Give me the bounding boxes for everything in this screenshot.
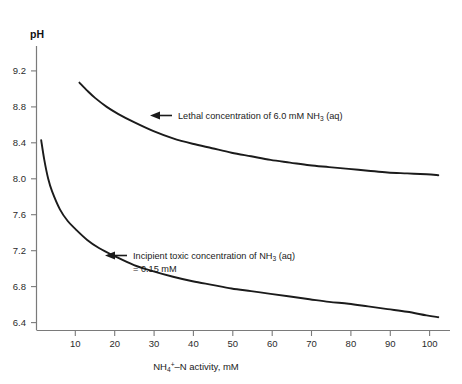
y-tick-label-7: 9.2 bbox=[13, 65, 26, 76]
ph-ammonia-chart: 6.4 6.8 7.2 7.6 8.0 8.4 8.8 9.2 10 20 bbox=[0, 0, 462, 384]
x-axis-ticks bbox=[75, 331, 429, 337]
y-tick-label-2: 7.2 bbox=[13, 245, 26, 256]
x-tick-label-4: 50 bbox=[228, 338, 239, 349]
x-tick-label-2: 30 bbox=[149, 338, 160, 349]
annotation-incipient-prefix: Incipient toxic concentration of NH bbox=[133, 251, 272, 261]
x-tick-label-1: 20 bbox=[109, 338, 120, 349]
annotation-incipient: Incipient toxic concentration of NH3 (aq… bbox=[105, 251, 295, 274]
annotation-incipient-text-line2: = 0.15 mM bbox=[133, 264, 177, 274]
y-tick-label-3: 7.6 bbox=[13, 209, 26, 220]
x-axis-title-prefix: NH bbox=[153, 361, 167, 372]
y-tick-label-0: 6.4 bbox=[13, 317, 26, 328]
x-tick-label-5: 60 bbox=[267, 338, 278, 349]
curve-incipient-toxic-concentration bbox=[41, 140, 438, 317]
y-tick-label-1: 6.8 bbox=[13, 281, 26, 292]
x-tick-label-7: 80 bbox=[346, 338, 357, 349]
y-tick-label-4: 8.0 bbox=[13, 173, 26, 184]
y-tick-label-5: 8.4 bbox=[13, 137, 26, 148]
x-tick-label-3: 40 bbox=[188, 338, 199, 349]
x-tick-label-9: 100 bbox=[422, 338, 438, 349]
curve-lethal-concentration bbox=[79, 83, 438, 176]
annotation-lethal-text: Lethal concentration of 6.0 mM NH3 (aq) bbox=[178, 111, 343, 122]
x-tick-label-0: 10 bbox=[70, 338, 81, 349]
annotation-incipient-suffix: (aq) bbox=[276, 251, 295, 261]
x-tick-label-6: 70 bbox=[306, 338, 317, 349]
annotation-lethal: Lethal concentration of 6.0 mM NH3 (aq) bbox=[150, 111, 343, 122]
annotation-lethal-suffix: (aq) bbox=[324, 111, 343, 121]
y-tick-label-6: 8.8 bbox=[13, 101, 26, 112]
y-axis-tick-labels: 6.4 6.8 7.2 7.6 8.0 8.4 8.8 9.2 bbox=[13, 65, 26, 328]
y-axis-title: pH bbox=[30, 28, 44, 40]
x-tick-label-8: 90 bbox=[385, 338, 396, 349]
x-axis-title: NH4+–N activity, mM bbox=[153, 361, 239, 374]
chart-figure: 6.4 6.8 7.2 7.6 8.0 8.4 8.8 9.2 10 20 bbox=[0, 0, 462, 384]
left-arrow-icon-lethal bbox=[150, 112, 160, 120]
y-axis-ticks bbox=[31, 71, 37, 323]
x-axis-tick-labels: 10 20 30 40 50 60 70 80 90 100 bbox=[70, 338, 438, 349]
x-axis-title-suffix: –N activity, mM bbox=[175, 361, 239, 372]
annotation-lethal-prefix: Lethal concentration of 6.0 mM NH bbox=[178, 111, 320, 121]
annotation-incipient-text: Incipient toxic concentration of NH3 (aq… bbox=[133, 251, 295, 262]
